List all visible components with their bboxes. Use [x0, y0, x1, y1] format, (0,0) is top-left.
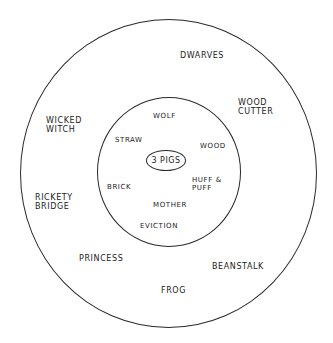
- inner-label-huff-puff: Huff & Puff: [192, 176, 222, 192]
- outer-label-dwarves: Dwarves: [180, 51, 224, 60]
- concentric-diagram: 3 Pigs Wolf Straw Wood Brick Huff & Puff…: [0, 0, 333, 343]
- outer-label-princess: Princess: [79, 254, 123, 263]
- inner-label-mother: Mother: [153, 201, 187, 209]
- outer-label-wood-cutter: Wood Cutter: [238, 98, 273, 116]
- outer-label-beanstalk: Beanstalk: [212, 262, 264, 271]
- inner-label-straw: Straw: [115, 136, 143, 144]
- inner-label-brick: Brick: [107, 183, 131, 191]
- outer-label-frog: Frog: [161, 286, 186, 295]
- outer-label-rickety-bridge: Rickety Bridge: [35, 193, 73, 211]
- inner-label-wood: Wood: [200, 142, 226, 150]
- center-ellipse: 3 Pigs: [146, 150, 186, 171]
- outer-label-wicked-witch: Wicked Witch: [46, 116, 82, 134]
- inner-label-eviction: Eviction: [140, 222, 178, 230]
- center-label: 3 Pigs: [151, 156, 180, 165]
- inner-label-wolf: Wolf: [153, 112, 176, 120]
